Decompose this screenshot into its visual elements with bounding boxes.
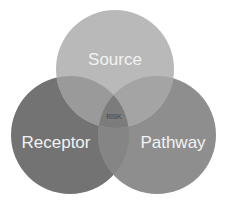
source-label: Source (88, 50, 142, 69)
risk-label: RISK (106, 113, 122, 120)
pathway-label: Pathway (140, 133, 206, 152)
receptor-label: Receptor (22, 133, 91, 152)
venn-diagram: Source Receptor Pathway RISK (0, 0, 225, 201)
